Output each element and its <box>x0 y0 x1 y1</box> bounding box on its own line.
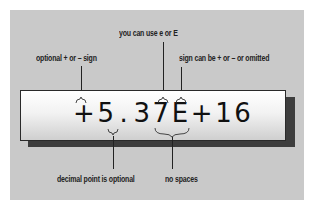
brace-sign <box>76 97 86 103</box>
label-decimal-point: decimal point is optional <box>57 174 135 184</box>
connector-no-spaces <box>172 137 173 169</box>
brace-no-spaces <box>155 128 189 137</box>
brace-exponent-marker <box>158 97 168 103</box>
connector-decimal-point <box>113 136 114 169</box>
brace-exponent-sign <box>176 97 186 103</box>
diagram-stage: you can use e or E optional + or – sign … <box>0 0 310 207</box>
label-no-spaces: no spaces <box>165 174 198 184</box>
braces-overlay <box>0 0 310 207</box>
brace-decimal-point <box>108 129 118 135</box>
